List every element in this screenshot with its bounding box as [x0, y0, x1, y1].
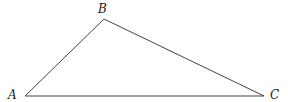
triangle-figure [0, 0, 288, 102]
edge-ab [25, 19, 104, 96]
vertex-label-b: B [98, 3, 107, 15]
vertex-label-c: C [270, 89, 279, 101]
vertex-label-a: A [8, 89, 17, 101]
triangle-diagram: A B C [0, 0, 288, 102]
edge-bc [104, 19, 264, 96]
